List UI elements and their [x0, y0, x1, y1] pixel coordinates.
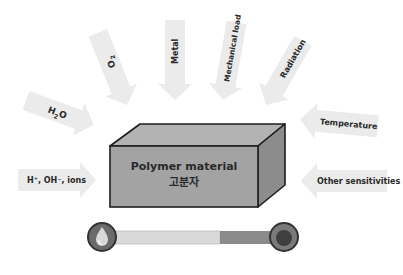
dark-circle-icon	[270, 223, 298, 251]
arrow-metal-label: Metal	[171, 38, 180, 64]
arrow-mechanical-load: Mechanical load	[206, 12, 254, 103]
box-title: Polymer material	[131, 160, 238, 173]
scale-bar-light	[110, 231, 220, 244]
arrow-ions: H⁺, OH⁻, ions	[18, 162, 96, 198]
arrow-h2o: H2O	[20, 84, 99, 141]
degradation-diagram: H2O O2 Metal Mechanical load Radiation T…	[0, 0, 403, 275]
arrow-radiation: Radiation	[251, 31, 318, 113]
arrow-ions-label: H⁺, OH⁻, ions	[27, 176, 86, 185]
arrow-metal: Metal	[158, 20, 192, 100]
water-drop-icon	[88, 223, 116, 251]
arrow-o2: O2	[82, 26, 143, 111]
arrow-temperature: Temperature	[299, 102, 380, 145]
polymer-box: Polymer material 고분자	[110, 124, 285, 207]
arrow-other-sensitivities: Other sensitivities	[301, 163, 400, 199]
sensitivity-scale	[88, 223, 298, 251]
arrow-other-label: Other sensitivities	[317, 177, 400, 186]
box-subtitle: 고분자	[169, 175, 200, 189]
box-top-face	[110, 124, 285, 146]
